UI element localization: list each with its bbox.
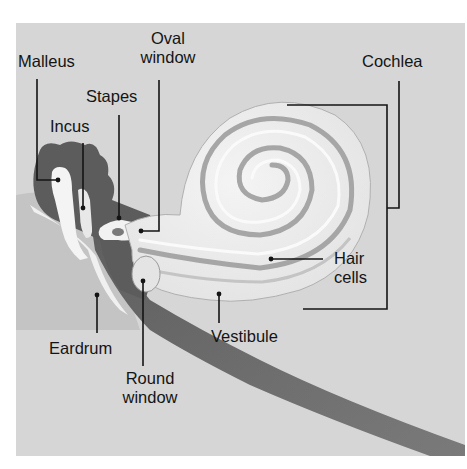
label-oval-window: Oval window (135, 29, 201, 67)
label-hair-cells-line2: cells (334, 268, 367, 287)
label-oval-window-line1: Oval (135, 29, 201, 48)
label-oval-window-line2: window (135, 48, 201, 67)
label-round-window-line2: window (110, 388, 190, 407)
label-vestibule: Vestibule (211, 327, 278, 346)
label-round-window-line1: Round (110, 369, 190, 388)
label-hair-cells-line1: Hair (334, 249, 367, 268)
label-round-window: Round window (110, 369, 190, 407)
label-malleus: Malleus (18, 52, 75, 71)
label-stapes: Stapes (86, 87, 137, 106)
label-cochlea: Cochlea (362, 52, 423, 71)
label-incus: Incus (50, 117, 89, 136)
label-hair-cells: Hair cells (334, 249, 367, 287)
round-window-membrane (132, 256, 160, 292)
label-eardrum: Eardrum (49, 339, 112, 358)
